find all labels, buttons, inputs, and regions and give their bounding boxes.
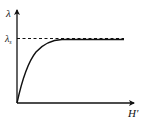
y-axis-label: λ [5, 7, 11, 19]
x-axis-label: H′ [127, 107, 139, 119]
data-curve [17, 40, 124, 104]
saturation-chart: λ λs H′ [0, 0, 144, 123]
reference-label: λs [4, 33, 12, 45]
